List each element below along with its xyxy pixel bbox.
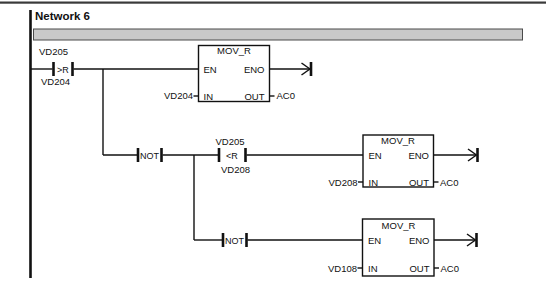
network-title: Network 6 <box>35 10 90 22</box>
contact-top-operand[interactable]: VD205 <box>39 46 68 57</box>
rung1-compare-contact[interactable]: VD205 >R VD204 <box>39 46 73 87</box>
box-title: MOV_R <box>382 220 416 231</box>
box-in-operand[interactable]: VD108 <box>328 263 357 274</box>
contact-top-operand[interactable]: VD205 <box>215 136 244 147</box>
rung3-not-contact[interactable]: NOT <box>223 233 247 247</box>
box-out-label: OUT <box>409 177 429 188</box>
box-in-label: IN <box>368 263 378 274</box>
contact-operator: <R <box>226 151 238 161</box>
network-comment-bar[interactable] <box>34 29 523 40</box>
rung2-compare-contact[interactable]: VD205 <R VD208 <box>215 136 250 175</box>
box-in-label: IN <box>369 177 379 188</box>
ladder-editor-canvas: Network 6 VD205 >R VD204 MOV_R EN ENO IN… <box>0 0 546 296</box>
rung2-mov-box[interactable]: MOV_R EN ENO IN OUT VD208 AC0 <box>328 135 458 188</box>
top-separator <box>0 2 546 4</box>
rung1-mov-box[interactable]: MOV_R EN ENO IN OUT VD204 AC0 <box>164 45 295 102</box>
box-out-operand[interactable]: AC0 <box>441 263 459 274</box>
box-in-operand[interactable]: VD204 <box>164 90 193 101</box>
box-in-label: IN <box>204 91 214 102</box>
box-out-operand[interactable]: AC0 <box>440 177 458 188</box>
box-out-operand[interactable]: AC0 <box>277 90 295 101</box>
box-in-operand[interactable]: VD208 <box>328 177 357 188</box>
box-en-label: EN <box>204 64 217 75</box>
box-title: MOV_R <box>381 135 415 146</box>
not-label: NOT <box>140 151 160 161</box>
rung2-not-contact[interactable]: NOT <box>138 148 162 162</box>
box-out-label: OUT <box>409 263 429 274</box>
box-eno-label: ENO <box>244 64 265 75</box>
box-eno-label: ENO <box>409 235 430 246</box>
rung3-mov-box[interactable]: MOV_R EN ENO IN OUT VD108 AC0 <box>328 219 459 276</box>
contact-bottom-operand[interactable]: VD208 <box>221 164 250 175</box>
not-label: NOT <box>225 236 245 246</box>
box-out-label: OUT <box>244 91 264 102</box>
box-eno-label: ENO <box>408 150 429 161</box>
contact-bottom-operand[interactable]: VD204 <box>41 76 70 87</box>
box-en-label: EN <box>368 235 381 246</box>
contact-operator: >R <box>57 65 69 75</box>
box-en-label: EN <box>369 150 382 161</box>
box-title: MOV_R <box>217 45 251 56</box>
